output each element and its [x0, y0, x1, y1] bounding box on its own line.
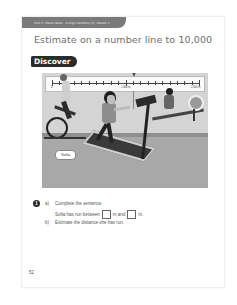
question-b-label: b) — [45, 220, 49, 225]
question-a-label: a) — [45, 201, 49, 206]
tick — [103, 81, 104, 85]
answer-box-upper[interactable] — [127, 210, 136, 219]
rower-body — [164, 95, 174, 109]
sofia-body — [102, 103, 116, 123]
rower-head — [166, 88, 173, 95]
page-title: Estimate on a number line to 10,000 — [34, 34, 212, 45]
tick — [162, 81, 163, 85]
question-b-text: Estimate the distance she has run. — [55, 220, 124, 225]
tick — [74, 81, 75, 85]
tick — [111, 81, 112, 85]
tick — [177, 81, 178, 85]
tick — [148, 81, 149, 85]
number-line-pole — [133, 91, 134, 109]
label-start: 0 — [51, 86, 52, 89]
label-mid: 1,000 m — [121, 86, 130, 89]
tick — [155, 81, 156, 85]
discover-label: Discover — [31, 56, 77, 67]
tick — [170, 81, 171, 85]
sentence-part-2: m and — [113, 212, 126, 217]
unit-breadcrumb: Unit 2: Place value – 4-digit numbers (3… — [34, 21, 110, 25]
question-a-text: Complete the sentence: — [55, 201, 103, 206]
tick — [96, 81, 97, 85]
gym-illustration: 0 1,000 m 2,000 m Sofia — [42, 73, 208, 188]
rowing-machine-flywheel — [188, 95, 204, 111]
question-a-sentence: Sofia has run between m and m. — [55, 210, 143, 219]
tick — [59, 81, 60, 85]
tick — [81, 81, 82, 85]
tick — [133, 81, 134, 85]
rowing-machine-stand — [193, 109, 195, 121]
sentence-part-3: m. — [138, 212, 143, 217]
sofia-name-tag: Sofia — [55, 150, 76, 160]
sofia-face — [107, 95, 115, 104]
exercise-bike-wheel — [46, 117, 68, 139]
tick — [184, 81, 185, 85]
tick — [118, 81, 119, 85]
textbook-page: Unit 2: Place value – 4-digit numbers (3… — [21, 16, 225, 288]
down-arrow-icon — [132, 73, 136, 77]
sentence-part-1: Sofia has run between — [55, 212, 100, 217]
cyclist-body — [62, 81, 70, 103]
tick — [140, 81, 141, 85]
cyclist-head — [60, 74, 67, 81]
answer-box-lower[interactable] — [102, 210, 111, 219]
tick — [192, 81, 193, 85]
tick — [89, 81, 90, 85]
exercise-bike-base — [44, 137, 86, 139]
label-end: 2,000 m — [191, 86, 200, 89]
question-number-badge: 1 — [33, 200, 40, 207]
unit-header-band: Unit 2: Place value – 4-digit numbers (3… — [22, 17, 126, 28]
page-number: 52 — [29, 270, 34, 275]
